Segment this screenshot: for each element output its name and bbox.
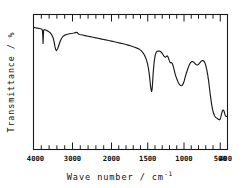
spectrum-plot-svg: 40003000200015001000500400 Wave number /… <box>0 0 249 188</box>
x-tick-label-2000: 2000 <box>103 154 120 163</box>
x-tick-label-400: 400 <box>219 154 232 163</box>
top-tick-marks <box>34 15 228 22</box>
x-axis-title-main: Wave number / cm <box>67 172 164 182</box>
x-axis-title-exponent: -1 <box>164 170 173 177</box>
x-axis-tick-labels: 40003000200015001000500400 <box>27 154 232 163</box>
x-tick-label-1000: 1000 <box>175 154 192 163</box>
svg-text:Wave number / cm-1: Wave number / cm-1 <box>67 170 173 182</box>
x-tick-label-1500: 1500 <box>139 154 156 163</box>
x-tick-label-4000: 4000 <box>27 154 44 163</box>
spectrum-trace <box>34 27 227 119</box>
plot-frame <box>34 15 228 150</box>
y-axis-title-text: Transmittance / % <box>6 31 16 132</box>
x-axis-title: Wave number / cm-1 <box>67 170 173 182</box>
ftir-spectrum-figure: 40003000200015001000500400 Wave number /… <box>0 0 249 188</box>
x-tick-label-3000: 3000 <box>64 154 81 163</box>
bottom-tick-marks <box>34 143 228 150</box>
y-axis-title: Transmittance / % <box>6 31 16 132</box>
